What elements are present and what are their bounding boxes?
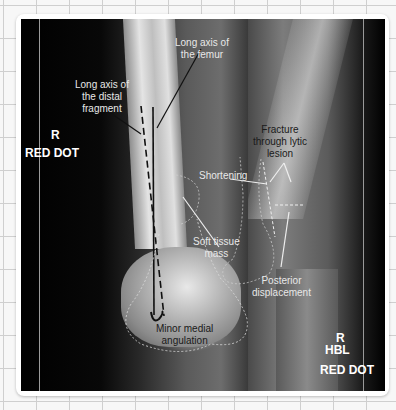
leader-posterior-displacement bbox=[281, 212, 289, 267]
label-long-axis-femur: Long axis of the femur bbox=[175, 37, 229, 61]
red-dot-marker-right: RED DOT bbox=[320, 364, 374, 377]
radiograph-composite: R RED DOT Long axis of the distal fragme… bbox=[21, 19, 385, 391]
leader-fracture-1 bbox=[270, 163, 284, 182]
label-soft-tissue-mass: Soft tissue mass bbox=[193, 236, 240, 260]
angulation-arrow bbox=[151, 311, 163, 320]
label-fracture-lytic-lesion: Fracture through lytic lesion bbox=[253, 124, 307, 160]
soft-tissue-outline bbox=[176, 175, 199, 224]
fracture-dashed-line bbox=[263, 162, 275, 237]
label-minor-medial-angulation: Minor medial angulation bbox=[156, 323, 213, 347]
label-long-axis-distal: Long axis of the distal fragment bbox=[75, 79, 129, 115]
label-posterior-displacement: Posterior displacement bbox=[252, 275, 311, 299]
red-dot-marker-left: RED DOT bbox=[25, 147, 79, 160]
hbl-marker: HBL bbox=[325, 344, 350, 357]
label-shortening: Shortening bbox=[199, 170, 247, 182]
side-marker-left: R bbox=[51, 129, 60, 142]
leader-fracture-2 bbox=[284, 163, 291, 182]
